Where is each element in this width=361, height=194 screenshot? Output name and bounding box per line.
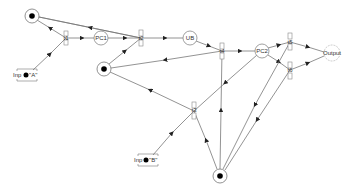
input-suffix: "B" [149,157,157,163]
place-pc2[interactable]: PC2 [255,44,269,58]
arc-ub-t4 [196,41,222,51]
place-output[interactable]: Output [323,45,341,61]
token [101,66,107,72]
arcs [33,17,324,170]
transition-label: t2 [138,35,144,41]
arc-t6-output [290,56,324,70]
transition-t4[interactable]: t4 [219,43,225,59]
transition-label: t3 [191,107,197,113]
petri-net-canvas: PC1 UB PC2 Output Inp "A" Inp "B" t1 [0,0,361,194]
transition-label: t1 [63,35,69,41]
arc-pmid-t2 [109,38,141,64]
transition-t1[interactable]: t1 [63,31,69,45]
arc-t1-ptop [37,20,66,38]
place-label: UB [186,35,194,41]
token [144,158,149,163]
input-b[interactable]: Inp "B" [134,154,158,166]
input-label: Inp [134,157,143,163]
place-ub[interactable]: UB [183,31,197,45]
arc-t5-output [290,42,324,52]
place-label: PC1 [95,35,107,41]
arc-t6-pbottom [225,70,290,170]
arc-pbottom-t4 [220,51,222,169]
place-label: Output [323,50,341,56]
input-suffix: "A" [29,72,37,78]
transition-label: t4 [219,48,225,54]
place-pc1[interactable]: PC1 [94,31,108,45]
transition-label: t6 [287,67,293,73]
token [29,13,35,19]
arc-t5-pbottom [223,42,290,169]
arc-pbottom-t3 [194,111,217,169]
token [217,173,223,179]
arc-t4-pmid [111,51,222,68]
transition-t2[interactable]: t2 [138,30,144,46]
transition-t5[interactable]: t5 [287,33,293,50]
arc-inpa-t1 [33,38,66,70]
place-p-mid[interactable] [97,62,111,76]
transition-label: t5 [287,39,293,45]
place-label: PC2 [256,48,268,54]
arc-inpb-t3 [153,111,194,155]
arc-t3-pmid [110,72,194,111]
place-p-top[interactable] [25,9,39,23]
token [24,73,29,78]
transition-t6[interactable]: t6 [287,62,293,79]
place-p-bottom[interactable] [213,169,227,183]
input-label: Inp [13,72,22,78]
input-a[interactable]: Inp "A" [13,69,37,81]
arc-pc2-t3 [194,55,257,111]
